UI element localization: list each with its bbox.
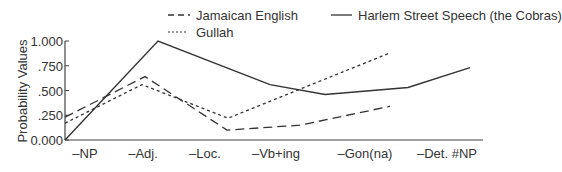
x-category-label: –NP <box>72 146 97 161</box>
y-ticks: 0.000.250.500.7501.000 <box>30 34 69 148</box>
line-chart: Jamaican English Gullah Harlem Street Sp… <box>0 0 562 172</box>
y-tick-label: 0.000 <box>30 133 63 148</box>
legend-label-jamaican: Jamaican English <box>196 8 298 23</box>
series-line-harlem-street-speech-the-cobras <box>65 41 470 140</box>
axes: 0.000.250.500.7501.000 –NP–Adj.–Loc.–Vb+… <box>30 34 483 161</box>
x-category-label: –Det. #NP <box>417 146 477 161</box>
y-tick-label: .500 <box>38 84 63 99</box>
series-lines <box>65 41 470 140</box>
x-category-labels: –NP–Adj.–Loc.–Vb+ing–Gon(na)–Det. #NP <box>72 146 477 161</box>
x-category-label: –Gon(na) <box>338 146 393 161</box>
legend-label-harlem: Harlem Street Speech (the Cobras) <box>358 8 562 23</box>
y-tick-label: .250 <box>38 108 63 123</box>
x-category-label: –Loc. <box>189 146 221 161</box>
legend: Jamaican English Gullah Harlem Street Sp… <box>168 8 562 40</box>
y-axis-label: Probability Values <box>15 39 30 143</box>
series-line-jamaican-english <box>65 77 390 131</box>
y-tick-label: 1.000 <box>30 34 63 49</box>
x-category-label: –Vb+ing <box>252 146 300 161</box>
x-category-label: –Adj. <box>128 146 158 161</box>
y-tick-label: .750 <box>38 59 63 74</box>
legend-label-gullah: Gullah <box>196 25 234 40</box>
